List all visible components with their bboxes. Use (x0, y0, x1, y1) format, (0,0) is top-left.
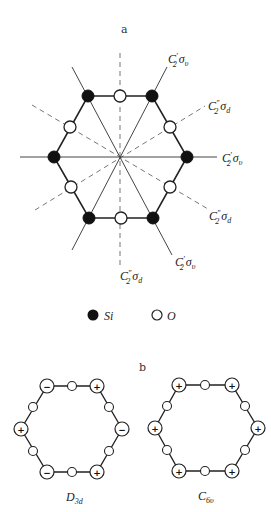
axis-label-right: C′2συ (222, 151, 243, 168)
c6v-sign-right: + (254, 424, 262, 434)
c6v-o-top (201, 381, 210, 390)
d3d-sign-right: − (118, 425, 126, 435)
d3d-o-lower-right (105, 447, 114, 456)
panel-b-label: b (139, 361, 146, 374)
si-atom-top-left (82, 90, 94, 102)
c6v-ring (155, 385, 258, 471)
d3d-o-lower-left (29, 447, 38, 456)
d3d-silicon-atoms (14, 379, 129, 479)
d3d-sign-top-right: + (93, 382, 101, 392)
d3d-sign-bottom-right: + (93, 468, 101, 478)
si-atom-bottom-left (83, 212, 95, 224)
o-atom-top (114, 90, 126, 102)
axis-label-upper-right: C″2σd (208, 99, 231, 116)
d3d-o-upper-right (105, 403, 114, 412)
panel-a-label: a (121, 23, 128, 36)
c6v-sign-top-right: + (228, 381, 236, 391)
si-atom-left (48, 151, 60, 163)
si-atom-top-right (146, 90, 158, 102)
axis-label-lower-right: C″2σd (209, 209, 232, 226)
diagram-canvas: a C′2συ C″2σd C′2συ C″2σd C′2συ C″2σd (0, 0, 271, 512)
c6v-sign-bottom-left: + (175, 467, 183, 477)
o-atom-upper-right (164, 121, 176, 133)
legend-o-label: O (167, 309, 176, 323)
legend: Si O (88, 309, 177, 323)
legend-si-label: Si (104, 309, 113, 323)
axis-label-top-right: C′2συ (168, 52, 189, 69)
d3d-o-top (68, 382, 77, 391)
c6v-signs: + + + + + + (151, 381, 262, 477)
d3d-sign-top-left: − (43, 382, 51, 392)
o-atom-upper-left (64, 121, 76, 133)
d3d-sign-bottom-left: − (43, 468, 51, 478)
o-atom-bottom (115, 212, 127, 224)
o-atom-lower-right (164, 181, 176, 193)
d3d-label: D3d (65, 490, 84, 506)
d3d-signs: − + − + − + (17, 382, 126, 478)
c6v-o-upper-right (241, 402, 250, 411)
c6v-label: C6υ (198, 489, 214, 505)
c6v-silicon-atoms (148, 378, 265, 478)
d3d-o-bottom (68, 468, 77, 477)
c6v-o-bottom (201, 467, 210, 476)
si-atom-right (181, 151, 193, 163)
c6v-o-lower-right (241, 446, 250, 455)
si-atom-bottom-right (147, 212, 159, 224)
c6v-o-upper-left (163, 402, 172, 411)
d3d-o-upper-left (29, 403, 38, 412)
o-atom-lower-left (65, 181, 77, 193)
c6v-sign-bottom-right: + (228, 467, 236, 477)
d3d-ring (21, 386, 122, 472)
d3d-sign-left: + (17, 425, 25, 435)
c6v-oxygen-atoms (163, 381, 250, 476)
axis-label-bottom: C″2σd (120, 269, 143, 286)
d3d-structure: − + − + − + D3d (14, 379, 129, 506)
legend-si-marker (88, 310, 99, 321)
c6v-o-lower-left (163, 446, 172, 455)
c6v-sign-top-left: + (175, 381, 183, 391)
axis-label-bottom-right: C′2συ (175, 255, 196, 272)
c6v-structure: + + + + + + C6υ (148, 378, 265, 505)
c6v-sign-left: + (151, 424, 159, 434)
legend-o-marker (152, 310, 162, 320)
